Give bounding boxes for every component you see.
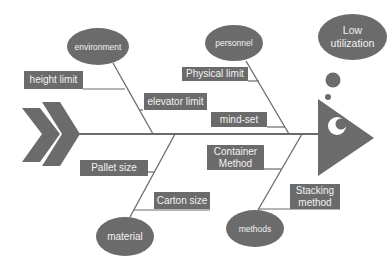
category-material: material	[96, 217, 154, 256]
effect-line-2: utilization	[331, 37, 375, 50]
cause-label-line-2: method	[298, 197, 331, 209]
cause-label-line-1: Container	[214, 146, 257, 158]
fish-head-icon	[318, 99, 374, 176]
cause-elevator-limit: elevator limit	[144, 93, 207, 110]
cause-carton-size: Carton size	[154, 192, 210, 209]
cause-physical-limit: Physical limit	[182, 67, 248, 81]
cause-mind-set: mind-set	[211, 112, 267, 127]
category-environment: environment	[67, 28, 129, 65]
cause-label: Carton size	[157, 195, 208, 207]
bubble-small-icon	[325, 94, 331, 100]
fishbone-diagram: environment personnel material methods L…	[0, 0, 387, 270]
cause-label-line-1: Stacking	[296, 185, 334, 197]
cause-label: elevator limit	[147, 96, 203, 108]
category-label: methods	[239, 224, 272, 234]
cause-label: Pallet size	[91, 162, 137, 174]
category-label: environment	[75, 42, 122, 52]
bubble-medium-icon	[326, 73, 341, 88]
cause-label-line-2: Method	[219, 158, 252, 170]
category-personnel: personnel	[205, 25, 263, 61]
effect-line-1: Low	[343, 24, 362, 37]
cause-pallet-size: Pallet size	[80, 160, 148, 176]
cause-container-method: Container Method	[207, 145, 264, 170]
cause-label: height limit	[30, 74, 78, 86]
fish-pupil-icon	[336, 119, 347, 130]
category-methods: methods	[226, 210, 284, 247]
cause-height-limit: height limit	[24, 71, 83, 89]
cause-label: mind-set	[220, 114, 258, 126]
cause-stacking-method: Stacking method	[290, 184, 340, 209]
effect-low-utilization: Low utilization	[318, 14, 387, 60]
category-label: material	[107, 231, 143, 242]
cause-label: Physical limit	[186, 68, 244, 80]
category-label: personnel	[215, 38, 252, 48]
